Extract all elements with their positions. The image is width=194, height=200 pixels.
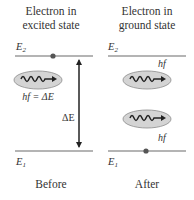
right-title-line1: Electron in (122, 5, 173, 17)
right-title-line2: ground state (119, 19, 176, 32)
left-e2-label: E2 (15, 41, 26, 54)
left-e1-label: E1 (15, 156, 26, 169)
stimulated-emission-diagram: Electron in excited state E2 ΔE hf = ΔE … (0, 0, 194, 200)
right-incident-photon (123, 71, 171, 89)
after-caption: After (135, 178, 159, 190)
right-e2-label: E2 (107, 41, 118, 54)
left-photon-label: hf = ΔE (22, 91, 54, 102)
right-top-photon-label: hf (158, 58, 167, 69)
left-electron-dot (50, 53, 55, 58)
right-emitted-photon (123, 110, 171, 128)
right-panel: Electron in ground state E2 hf hf E1 Aft… (107, 5, 186, 190)
left-title-line2: excited state (22, 19, 79, 31)
left-incident-photon (14, 71, 62, 89)
right-electron-dot (143, 148, 148, 153)
right-bottom-photon-label: hf (158, 132, 167, 143)
delta-e-label: ΔE (62, 112, 75, 123)
right-e1-label: E1 (107, 156, 118, 169)
left-title-line1: Electron in (26, 5, 77, 17)
left-panel: Electron in excited state E2 ΔE hf = ΔE … (14, 5, 93, 190)
before-caption: Before (35, 178, 66, 190)
